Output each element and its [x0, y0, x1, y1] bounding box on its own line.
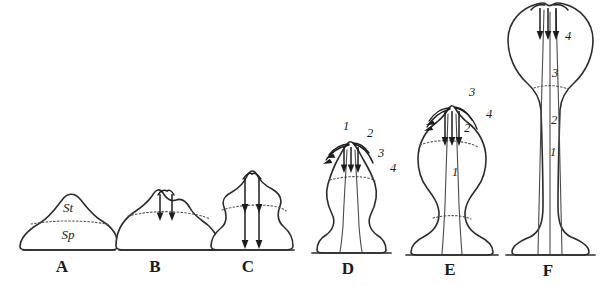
panel-a: St Sp A — [20, 194, 118, 276]
panel-d: 1 2 3 4 D — [312, 119, 396, 278]
panel-e-letter: E — [444, 260, 455, 279]
panel-f-number-4: 4 — [565, 29, 571, 43]
panel-f-number-2: 2 — [551, 113, 557, 127]
panel-f-number-3: 3 — [551, 66, 558, 80]
panel-b-letter: B — [149, 257, 160, 276]
panel-e-number-3: 3 — [468, 85, 475, 99]
panel-e-number-1: 1 — [452, 165, 458, 179]
panel-b-outline — [116, 190, 219, 250]
figure-plate: St Sp A B — [0, 0, 602, 286]
panel-d-number-2: 2 — [367, 126, 373, 140]
panel-c-outline — [211, 171, 293, 250]
panel-a-label-sp: Sp — [62, 227, 76, 242]
panel-c-letter: C — [242, 257, 254, 276]
panel-f-letter: F — [543, 261, 553, 280]
panel-d-number-3: 3 — [377, 146, 384, 160]
panel-e: 3 4 2 1 E — [406, 85, 498, 279]
panel-b: B — [116, 190, 219, 276]
panel-e-number-2: 2 — [464, 121, 470, 135]
panel-c: C — [210, 171, 294, 276]
panel-d-number-1: 1 — [343, 119, 349, 133]
panel-f-number-1: 1 — [550, 145, 556, 159]
panel-a-letter: A — [56, 257, 69, 276]
panel-f: 4 3 2 1 F — [506, 3, 595, 280]
panel-d-letter: D — [342, 259, 354, 278]
illustration-canvas: St Sp A B — [0, 0, 602, 286]
panel-d-number-4: 4 — [390, 161, 396, 175]
panel-e-number-4: 4 — [486, 107, 492, 121]
panel-a-label-st: St — [63, 200, 74, 215]
